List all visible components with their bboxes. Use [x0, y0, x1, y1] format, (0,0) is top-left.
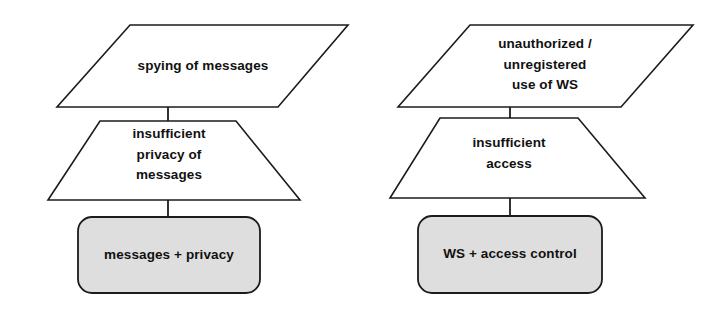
- threat-parallelogram-right[interactable]: [398, 25, 693, 107]
- asset-rounded-rect-left[interactable]: [78, 217, 260, 293]
- diagram-canvas: spying of messages insufficient privacy …: [0, 0, 723, 312]
- threat-parallelogram-left[interactable]: [57, 25, 348, 107]
- vulnerability-trapezoid-left[interactable]: [48, 121, 300, 200]
- asset-rounded-rect-right[interactable]: [418, 216, 602, 293]
- vulnerability-trapezoid-right[interactable]: [390, 118, 645, 198]
- diagram-shapes-layer: [0, 0, 723, 312]
